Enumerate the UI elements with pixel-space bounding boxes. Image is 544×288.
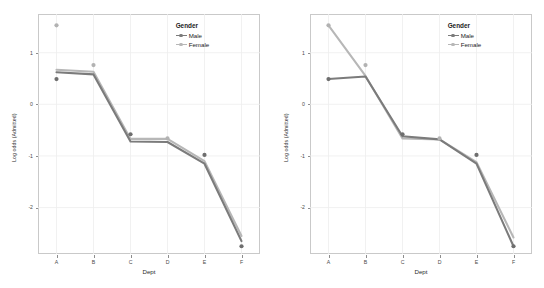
x-axis-tick-label: C [395,259,411,265]
y-axis-tick-label: 1 [288,50,305,56]
y-axis-tick-label: 1 [16,50,33,56]
legend-item-label: Male [189,32,202,39]
data-point [363,63,367,67]
x-axis-tick-mark [440,255,441,258]
plot-graphics [272,0,544,288]
x-axis-tick-label: A [321,259,337,265]
legend-key-icon [448,40,459,49]
legend-item-label: Female [461,41,482,48]
gridlines [38,14,260,254]
data-point [400,132,404,136]
x-axis-tick-label: C [123,259,139,265]
y-axis-tick-label: -1 [288,153,305,159]
y-axis-tick-mark [36,208,39,209]
y-axis-tick-label: 0 [16,101,33,107]
y-axis-tick-mark [308,208,311,209]
x-axis-title: Dept [38,268,260,275]
chart-panel-right: 10-1-2ABCDEFDeptLog odds (Admitted)Gende… [272,0,544,288]
x-axis-tick-label: E [469,259,485,265]
x-axis-tick-mark [242,255,243,258]
x-axis-tick-label: D [432,259,448,265]
legend-item-male[interactable]: Male [176,31,210,40]
y-axis-tick-mark [36,104,39,105]
legend-item-male[interactable]: Male [448,31,482,40]
y-axis-tick-label: 0 [288,101,305,107]
series-line-male [57,72,242,241]
data-point [326,77,330,81]
data-point [239,244,243,248]
data-point [202,153,206,157]
series-line-female [329,25,514,237]
x-axis-tick-mark [168,255,169,258]
legend: GenderMaleFemale [176,22,210,49]
legend-key-icon [448,31,459,40]
y-axis-tick-mark [36,156,39,157]
x-axis-tick-mark [131,255,132,258]
x-axis-tick-mark [205,255,206,258]
y-axis-tick-label: -1 [16,153,33,159]
data-point [128,132,132,136]
legend-key-icon [176,40,187,49]
legend-key-icon [176,31,187,40]
x-axis-tick-mark [57,255,58,258]
x-axis-tick-mark [514,255,515,258]
legend-item-female[interactable]: Female [448,40,482,49]
data-point [511,244,515,248]
x-axis-tick-label: A [49,259,65,265]
data-point [54,23,58,27]
y-axis-tick-mark [308,104,311,105]
legend-item-label: Male [461,32,474,39]
x-axis-tick-label: E [197,259,213,265]
data-point [474,153,478,157]
x-axis-tick-mark [403,255,404,258]
x-axis-tick-label: F [234,259,250,265]
series-line-female [57,70,242,236]
y-axis-title: Log odds (Admitted) [283,113,289,162]
y-axis-tick-mark [308,156,311,157]
legend: GenderMaleFemale [448,22,482,49]
x-axis-title: Dept [310,268,532,275]
series-line-male [329,76,514,246]
legend-item-label: Female [189,41,210,48]
data-point [54,77,58,81]
data-point [165,136,169,140]
data-point [91,63,95,67]
x-axis-tick-label: F [506,259,522,265]
chart-panel-left: 10-1-2ABCDEFDeptLog odds (Admitted)Gende… [0,0,272,288]
legend-item-female[interactable]: Female [176,40,210,49]
x-axis-tick-label: B [86,259,102,265]
x-axis-tick-mark [94,255,95,258]
y-axis-tick-mark [308,53,311,54]
data-point [437,136,441,140]
x-axis-tick-label: D [160,259,176,265]
x-axis-tick-mark [366,255,367,258]
gridlines [310,14,532,254]
plot-graphics [0,0,272,288]
y-axis-tick-mark [36,53,39,54]
legend-title: Gender [176,22,210,29]
figure-canvas: 10-1-2ABCDEFDeptLog odds (Admitted)Gende… [0,0,544,288]
legend-title: Gender [448,22,482,29]
x-axis-tick-mark [329,255,330,258]
y-axis-tick-label: -2 [288,204,305,210]
data-point [326,23,330,27]
x-axis-tick-mark [477,255,478,258]
x-axis-tick-label: B [358,259,374,265]
y-axis-tick-label: -2 [16,204,33,210]
y-axis-title: Log odds (Admitted) [11,113,17,162]
